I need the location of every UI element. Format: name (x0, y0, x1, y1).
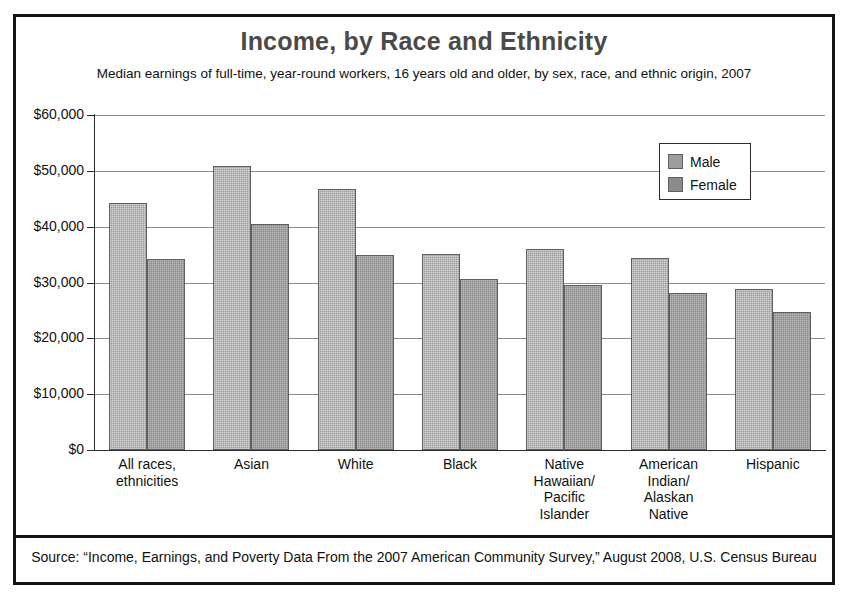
category-label-line: Native (609, 506, 729, 523)
y-axis-tick (87, 171, 95, 172)
category-label-line: All races, (87, 456, 207, 473)
bar-male (109, 203, 147, 450)
x-axis-category-label: NativeHawaiian/PacificIslander (504, 456, 624, 522)
legend-swatch-male (668, 154, 683, 169)
gridline (95, 115, 825, 116)
x-axis-category-label: White (296, 456, 416, 473)
bar-female (460, 279, 498, 450)
y-axis-label: $20,000 (4, 329, 84, 345)
bar-female (251, 224, 289, 450)
chart-title: Income, by Race and Ethnicity (0, 27, 848, 56)
x-axis-category-label: Asian (191, 456, 311, 473)
bar-female (356, 255, 394, 450)
x-axis-category-label: AmericanIndian/AlaskanNative (609, 456, 729, 522)
category-label-line: Indian/ (609, 473, 729, 490)
legend-label-female: Female (690, 177, 737, 193)
gridline (95, 227, 825, 228)
y-axis-tick (87, 283, 95, 284)
category-label-line: Asian (191, 456, 311, 473)
y-axis-label: $50,000 (4, 162, 84, 178)
y-axis-tick (87, 450, 95, 451)
x-axis-category-label: Black (400, 456, 520, 473)
bar-female (669, 293, 707, 450)
y-axis-tick (87, 227, 95, 228)
source-divider (16, 535, 832, 538)
y-axis-label: $40,000 (4, 218, 84, 234)
y-axis-label: $0 (4, 441, 84, 457)
x-axis-line (94, 450, 826, 451)
y-axis-tick (87, 338, 95, 339)
bar-male (735, 289, 773, 450)
y-axis-tick (87, 394, 95, 395)
y-axis-label: $10,000 (4, 385, 84, 401)
category-label-line: Native (504, 456, 624, 473)
category-label-line: Pacific (504, 489, 624, 506)
legend-item-male: Male (668, 150, 750, 173)
category-label-line: White (296, 456, 416, 473)
bar-female (773, 312, 811, 450)
bar-male (318, 189, 356, 450)
category-label-line: ethnicities (87, 473, 207, 490)
category-label-line: Hispanic (713, 456, 833, 473)
category-label-line: Alaskan (609, 489, 729, 506)
y-axis-label: $30,000 (4, 274, 84, 290)
legend-label-male: Male (690, 154, 720, 170)
bar-male (526, 249, 564, 450)
chart-subtitle: Median earnings of full-time, year-round… (0, 66, 848, 81)
category-label-line: Islander (504, 506, 624, 523)
category-label-line: Black (400, 456, 520, 473)
source-note: Source: “Income, Earnings, and Poverty D… (0, 549, 848, 565)
category-label-line: Hawaiian/ (504, 473, 624, 490)
category-label-line: American (609, 456, 729, 473)
y-axis-label: $60,000 (4, 106, 84, 122)
chart-page: Income, by Race and Ethnicity Median ear… (0, 0, 848, 599)
chart-legend: Male Female (659, 143, 751, 200)
x-axis-category-label: Hispanic (713, 456, 833, 473)
bar-female (564, 285, 602, 450)
bar-male (422, 254, 460, 450)
bar-male (213, 166, 251, 450)
bar-female (147, 259, 185, 451)
legend-item-female: Female (668, 173, 750, 196)
x-axis-category-label: All races,ethnicities (87, 456, 207, 489)
legend-swatch-female (668, 177, 683, 192)
y-axis-tick (87, 115, 95, 116)
bar-male (631, 258, 669, 450)
